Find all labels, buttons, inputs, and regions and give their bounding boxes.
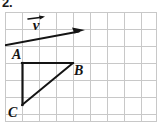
triangle-edge-cb [22,63,73,105]
vector-label: v [25,12,47,34]
figure-container: 2. [0,0,158,129]
triangle-abc [22,63,73,105]
vertex-label-a: A [12,48,21,62]
bottom-white-margin [0,124,158,129]
problem-number: 2. [2,0,12,9]
vertex-label-c: C [8,106,17,120]
vertex-label-b: B [74,64,83,78]
vector-label-text: v [25,18,47,33]
